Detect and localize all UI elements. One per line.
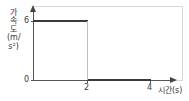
y-axis-title: 가속도(m/s²) <box>7 9 20 51</box>
y-tick-label-6: 6 <box>24 16 29 25</box>
data-segment-drop-at-2 <box>87 21 88 80</box>
x-tick-label-2: 2 <box>84 83 89 92</box>
acceleration-time-chart: 6 0 2 4 가속도(m/s²) 시간(s) <box>0 0 189 101</box>
data-segment-constant-6 <box>33 20 88 22</box>
plot-frame <box>33 6 183 81</box>
x-tick-label-4: 4 <box>147 83 152 92</box>
x-axis-title: 시간(s) <box>158 84 182 95</box>
y-tick-label-0: 0 <box>24 75 29 84</box>
y-tick-mark-0 <box>31 80 35 81</box>
data-segment-constant-0 <box>88 79 151 81</box>
x-axis-arrow-icon <box>170 77 177 83</box>
y-axis-arrow-icon <box>30 5 36 12</box>
